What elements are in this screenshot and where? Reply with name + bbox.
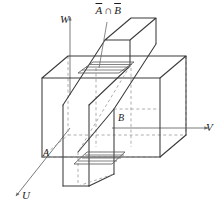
axis-label-v: V [206,122,213,133]
intersection-operator-icon: ∩ [103,4,114,16]
slab-hidden-edge-bottom-cap [78,174,114,186]
point-label-a: A [43,148,49,158]
set-label-leader-line [99,22,107,68]
hatch-region-top-outline [78,62,134,73]
axis-u-line [16,128,70,196]
slab-edge-right-bottom-diagonal [89,174,114,186]
slab-top-cap-face [105,18,156,40]
axis-label-w: W [60,14,69,25]
set-label-first-term: A [95,4,103,16]
set-label-second-term: B [114,4,122,16]
cube-edge-bottom-right-diagonal [160,135,186,157]
point-connectors [42,109,160,157]
set-intersection-label: A∩B [95,5,121,16]
slab-edge-right-upper [114,44,156,109]
geometry-diagram [0,0,223,209]
axis-label-u: U [22,190,30,201]
axis-group [16,17,208,196]
figure-container: W V U A B A∩B [0,0,223,209]
slab-hidden-edges [78,66,130,186]
hatch-region-bottom [74,152,125,164]
hatch-region-top [78,62,134,73]
slab-top-cap [105,18,156,66]
point-label-b: B [118,113,124,123]
slab-edge-left-inner [89,66,130,105]
